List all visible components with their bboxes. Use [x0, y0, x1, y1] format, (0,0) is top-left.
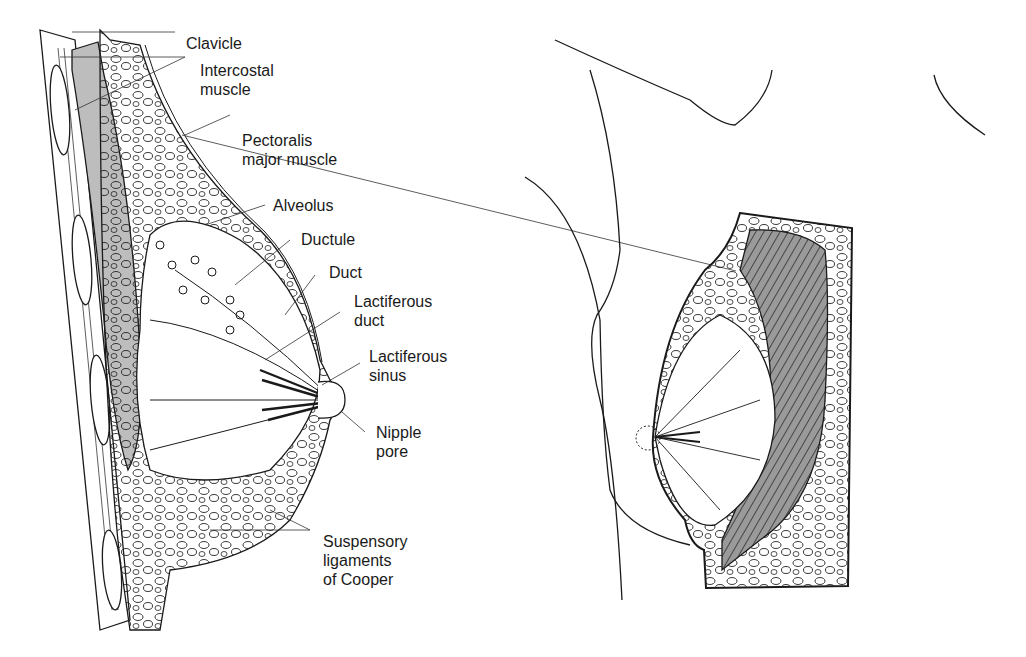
label-lactiferous-sinus: Lactiferous sinus [369, 347, 447, 385]
shoulder-line [555, 40, 772, 125]
label-duct: Duct [329, 263, 362, 282]
label-lactiferous-duct: Lactiferous duct [354, 292, 432, 330]
label-clavicle: Clavicle [186, 34, 242, 53]
glandular-lobes [137, 221, 320, 480]
breast-anatomy-diagram [0, 0, 1026, 657]
label-suspensory-ligaments: Suspensory ligaments of Cooper [323, 532, 408, 589]
label-nipple-pore: Nipple pore [376, 423, 421, 461]
nipple [318, 381, 345, 418]
back-line [590, 70, 622, 600]
right-shoulder [934, 75, 985, 135]
label-pectoralis-major: Pectoralis major muscle [242, 131, 337, 169]
label-ductule: Ductule [301, 230, 355, 249]
label-alveolus: Alveolus [273, 196, 333, 215]
torso-view [525, 40, 985, 600]
sagittal-section [40, 30, 345, 630]
label-intercostal-muscle: Intercostal muscle [200, 61, 274, 99]
